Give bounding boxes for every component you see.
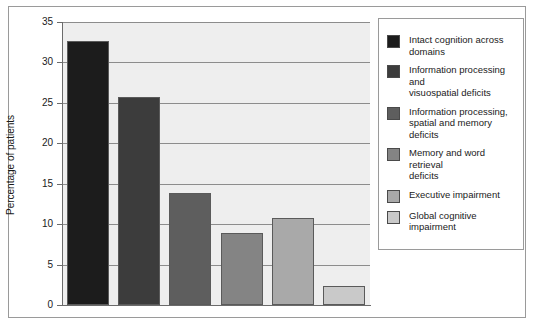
legend-item: Information processing, spatial and memo… [379,106,523,141]
legend-swatch-icon [387,35,400,48]
y-axis-tick [57,184,63,185]
bar [323,286,365,305]
plot-region: 35302520151050 [62,22,370,306]
y-axis-tick-label: 25 [42,98,53,108]
legend-item: Global cognitive impairment [379,210,523,233]
legend-item: Intact cognition across domains [379,34,523,57]
chart-figure: 35302520151050 Percentage of patients In… [0,0,534,330]
y-axis-tick-label: 0 [47,300,53,310]
y-axis-tick [57,224,63,225]
x-axis-line [62,305,371,306]
legend-swatch-icon [387,211,400,224]
bar [272,218,314,305]
bar [118,97,160,305]
legend-swatch-icon [387,65,400,78]
y-axis-title: Percentage of patients [5,115,16,215]
legend-item: Information processing and visuospatial … [379,64,523,99]
y-axis-tick-label: 20 [42,138,53,148]
y-axis-tick-label: 30 [42,57,53,67]
bar [169,193,211,305]
legend-item: Executive impairment [379,189,523,203]
legend-item-label: Executive impairment [409,189,500,201]
legend-item: Memory and word retrieval deficits [379,147,523,182]
legend-item-label: Information processing, spatial and memo… [409,106,515,141]
y-axis-tick [57,143,63,144]
y-axis-tick-label: 15 [42,179,53,189]
legend-swatch-icon [387,190,400,203]
y-axis-tick [57,62,63,63]
y-axis-tick [57,103,63,104]
y-axis-tick-label: 10 [42,219,53,229]
y-axis-line [62,22,63,306]
legend-swatch-icon [387,148,400,161]
y-axis-tick-label: 5 [47,260,53,270]
bars-container [62,22,370,305]
y-axis-tick [57,265,63,266]
legend-item-label: Information processing and visuospatial … [409,64,515,99]
bar [67,41,109,305]
legend-item-label: Global cognitive impairment [409,210,515,233]
legend-swatch-icon [387,107,400,120]
chart-legend: Intact cognition across domainsInformati… [378,18,524,250]
y-axis-tick-label: 35 [42,17,53,27]
y-axis-tick [57,22,63,23]
legend-item-label: Memory and word retrieval deficits [409,147,515,182]
bar [221,233,263,305]
legend-item-label: Intact cognition across domains [409,34,515,57]
y-axis-tick [57,305,63,306]
